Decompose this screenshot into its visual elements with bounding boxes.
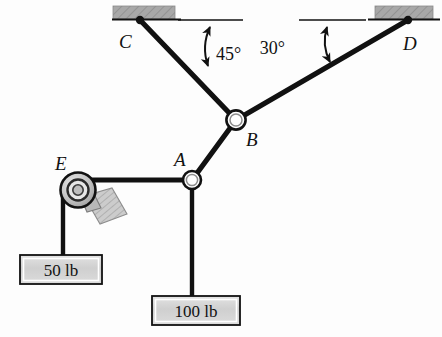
- figure-root: 50 lb 100 lb C D B A E 45° 30°: [0, 0, 442, 337]
- pulley-hub: [73, 185, 83, 195]
- point-label-D: D: [402, 33, 417, 54]
- point-label-E: E: [54, 153, 67, 174]
- cable-AB: [192, 120, 236, 180]
- statics-diagram: 50 lb 100 lb C D B A E 45° 30°: [0, 0, 442, 337]
- support-block-C: [112, 6, 181, 20]
- point-label-C: C: [119, 31, 132, 52]
- load-box-100: 100 lb: [152, 296, 240, 325]
- angle-arc-30: [325, 27, 330, 62]
- angle-arc-45: [205, 27, 210, 66]
- joint-ring-A: [183, 171, 201, 189]
- anchor-dot-D: [404, 16, 412, 24]
- point-label-A: A: [172, 149, 186, 170]
- joint-B-inner: [230, 114, 242, 126]
- pulley-E: [61, 173, 96, 208]
- cable-CB: [140, 20, 236, 120]
- anchor-dot-C: [136, 16, 144, 24]
- point-label-B: B: [246, 129, 258, 150]
- angle-label-45: 45°: [216, 44, 241, 64]
- load-box-50: 50 lb: [20, 255, 102, 284]
- joint-ring-B: [226, 110, 245, 129]
- load-box-100-label: 100 lb: [175, 302, 218, 321]
- cable-BD: [236, 20, 408, 120]
- joint-A-inner: [186, 174, 197, 185]
- load-box-50-label: 50 lb: [44, 261, 78, 280]
- support-block-D: [368, 6, 440, 20]
- support-block-D-hatch: [375, 6, 433, 19]
- angle-label-30: 30°: [260, 38, 285, 58]
- support-block-C-hatch: [113, 6, 175, 19]
